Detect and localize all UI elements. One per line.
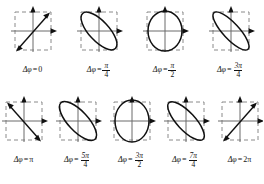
panel-2-denominator: 4	[102, 70, 110, 79]
panel-8: Δφ=7π4	[160, 94, 212, 169]
x-axis-arrowhead	[116, 28, 123, 33]
panel-6-plot	[52, 94, 104, 150]
panel-5: Δφ=π	[0, 94, 50, 169]
panel-4-denominator: 4	[234, 70, 242, 79]
panel-6-fraction: 5π4	[80, 152, 92, 168]
y-axis-arrowhead	[237, 96, 242, 103]
x-axis-arrowhead	[149, 118, 156, 123]
panel-8-plot	[160, 94, 212, 150]
panel-2-numerator: π	[102, 62, 110, 70]
panel-1-plot	[7, 4, 59, 60]
y-axis-arrowhead	[30, 6, 35, 13]
lissajous-figure-grid: Δφ=0 Δφ=π4	[0, 0, 263, 184]
curve-arrowhead-bottom	[16, 45, 23, 51]
panel-9: Δφ=2π	[214, 94, 264, 169]
panel-6-symbol: Δφ	[64, 156, 73, 164]
x-axis-arrowhead	[248, 28, 255, 33]
panel-2-symbol: Δφ	[87, 66, 96, 74]
panel-9-plot	[214, 94, 264, 150]
panel-4-numerator: 3π	[233, 62, 245, 70]
x-axis-arrowhead	[95, 118, 102, 123]
panel-7: Δφ=3π2	[106, 94, 158, 169]
panel-6: Δφ=5π4	[52, 94, 104, 169]
panel-2-caption: Δφ=π4	[87, 61, 110, 79]
panel-9-caption: Δφ=2π	[228, 151, 252, 169]
panel-5-caption: Δφ=π	[14, 151, 34, 169]
panel-4-fraction: 3π4	[233, 62, 245, 78]
panel-6-equals: =	[74, 156, 79, 164]
panel-7-caption: Δφ=3π2	[118, 151, 145, 169]
panel-8-caption: Δφ=7π4	[172, 151, 199, 169]
panel-7-plot	[106, 94, 158, 150]
panel-9-symbol: Δφ	[228, 156, 237, 164]
x-axis-arrowhead	[41, 118, 48, 123]
panel-1-symbol: Δφ	[23, 66, 32, 74]
panel-3-plot	[139, 4, 191, 60]
panel-8-equals: =	[182, 156, 187, 164]
x-axis-arrowhead	[203, 118, 210, 123]
panel-2-equals: =	[97, 66, 102, 74]
panel-7-numerator: 3π	[134, 152, 146, 160]
panel-7-equals: =	[128, 156, 133, 164]
x-axis-arrowhead	[50, 28, 57, 33]
panel-3-caption: Δφ=π2	[153, 61, 176, 79]
panel-3-numerator: π	[168, 62, 176, 70]
panel-1-equals: =	[33, 66, 38, 74]
y-axis-arrowhead	[129, 96, 134, 103]
curve-arrowhead-top	[43, 13, 50, 19]
y-axis-arrowhead	[183, 96, 188, 103]
panel-3-equals: =	[163, 66, 168, 74]
panel-4-symbol: Δφ	[217, 66, 226, 74]
panel-8-denominator: 4	[189, 160, 197, 169]
panel-1: Δφ=0	[7, 4, 59, 79]
y-axis-arrowhead	[96, 6, 101, 13]
panel-5-equals: =	[24, 156, 29, 164]
panel-2: Δφ=π4	[73, 4, 125, 79]
panel-2-plot	[73, 4, 125, 60]
panel-7-denominator: 2	[135, 160, 143, 169]
panel-5-plot	[0, 94, 50, 150]
figure-row-2: Δφ=π Δφ=5π4	[0, 92, 263, 184]
panel-8-numerator: 7π	[188, 152, 200, 160]
panel-6-caption: Δφ=5π4	[64, 151, 91, 169]
panel-2-fraction: π4	[102, 62, 110, 78]
curve-arrowhead-top	[250, 103, 257, 109]
panel-8-symbol: Δφ	[172, 156, 181, 164]
panel-3-denominator: 2	[168, 70, 176, 79]
panel-4-plot	[205, 4, 257, 60]
panel-6-numerator: 5π	[80, 152, 92, 160]
x-axis-arrowhead	[257, 118, 263, 123]
panel-3-symbol: Δφ	[153, 66, 162, 74]
panel-3-fraction: π2	[168, 62, 176, 78]
panel-1-caption: Δφ=0	[23, 61, 43, 79]
y-axis-arrowhead	[75, 96, 80, 103]
panel-1-value: 0	[38, 66, 42, 74]
panel-7-symbol: Δφ	[118, 156, 127, 164]
panel-9-equals: =	[238, 156, 243, 164]
panel-4-caption: Δφ=3π4	[217, 61, 244, 79]
panel-3: Δφ=π2	[139, 4, 191, 79]
panel-5-symbol: Δφ	[14, 156, 23, 164]
panel-4: Δφ=3π4	[205, 4, 257, 79]
panel-7-fraction: 3π2	[134, 152, 146, 168]
figure-row-1: Δφ=0 Δφ=π4	[0, 0, 263, 92]
panel-5-value: π	[29, 156, 33, 164]
panel-9-value: 2π	[243, 156, 251, 164]
panel-6-denominator: 4	[81, 160, 89, 169]
curve-arrowhead-bottom	[223, 135, 230, 141]
y-axis-arrowhead	[21, 96, 26, 103]
panel-4-equals: =	[227, 66, 232, 74]
x-axis-arrowhead	[182, 28, 189, 33]
y-axis-arrowhead	[228, 6, 233, 13]
panel-8-fraction: 7π4	[188, 152, 200, 168]
